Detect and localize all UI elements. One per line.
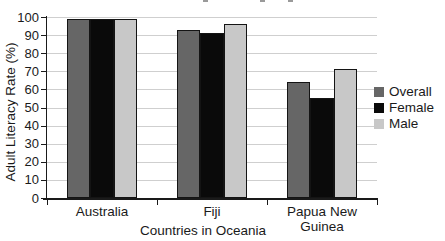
legend-item-overall: Overall [374,84,434,99]
legend-label: Female [389,100,434,115]
bar-female-fiji [200,33,224,198]
y-axis-line [46,16,47,199]
y-tick-label: 100 [0,11,39,24]
y-tick-label: 60 [0,83,39,96]
y-tick-label: 0 [0,192,39,205]
legend-label: Overall [389,84,432,99]
x-axis-label: Countries in Oceania [38,223,368,238]
y-tick-label: 90 [0,29,39,42]
y-tick-label: 70 [0,65,39,78]
category-label-fiji: Fiji [157,204,267,219]
legend-swatch-icon [374,119,384,129]
y-tick-label: 30 [0,137,39,150]
legend-label: Male [389,116,418,131]
y-tick-label: 50 [0,101,39,114]
bar-female-australia [90,19,114,198]
bar-overall-australia [67,19,91,198]
x-axis-line [43,198,378,200]
bar-male-fiji [224,24,248,198]
bar-overall-fiji [177,30,201,198]
y-tick-label: 80 [0,47,39,60]
legend-item-female: Female [374,100,434,115]
bar-female-papua-new-guinea [310,98,334,198]
legend: OverallFemaleMale [374,84,434,132]
y-tick-label: 20 [0,155,39,168]
legend-swatch-icon [374,87,384,97]
legend-swatch-icon [374,103,384,113]
legend-item-male: Male [374,116,434,131]
adult-literacy-bar-chart: Adult Literacy Rate (%) 0102030405060708… [0,0,445,241]
bar-male-papua-new-guinea [334,69,358,198]
bar-male-australia [114,19,138,198]
bar-overall-papua-new-guinea [287,82,311,198]
y-tick-label: 10 [0,173,39,186]
y-tick-label: 40 [0,119,39,132]
category-label-australia: Australia [47,204,157,219]
